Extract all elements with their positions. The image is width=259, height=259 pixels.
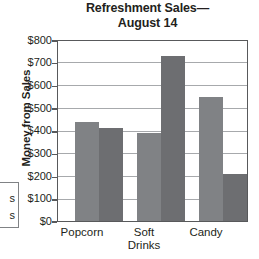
legend-item-0: s xyxy=(10,193,16,204)
chart-title: Refreshment Sales— August 14 xyxy=(40,1,255,30)
x-tick-label-popcorn: Popcorn xyxy=(48,226,116,239)
x-tick-label-soft-drinks: Soft Drinks xyxy=(110,226,178,252)
bar-popcorn-series1 xyxy=(75,122,99,221)
bar-chart-figure: Refreshment Sales— August 14 Money from … xyxy=(0,0,259,259)
x-tick-label-candy: Candy xyxy=(172,226,240,239)
x-tick-softdrinks-line2: Drinks xyxy=(110,239,178,252)
y-tick-label-700: $700 xyxy=(0,57,52,68)
bar-softdrinks-series2 xyxy=(161,56,185,221)
bar-candy-series1 xyxy=(199,97,223,221)
y-tick-label-500: $500 xyxy=(0,103,52,114)
x-tick-softdrinks-line1: Soft xyxy=(134,226,154,238)
bars-layer xyxy=(58,41,247,221)
chart-title-line1: Refreshment Sales— xyxy=(86,1,209,15)
legend-item-1: s xyxy=(10,210,16,221)
y-tick-label-800: $800 xyxy=(0,35,52,46)
bar-softdrinks-series1 xyxy=(137,133,161,221)
legend: s s xyxy=(0,182,19,228)
legend-item-1-label: s xyxy=(10,209,16,221)
chart-title-line2: August 14 xyxy=(40,16,255,31)
y-tick-label-600: $600 xyxy=(0,80,52,91)
y-tick-label-200: $200 xyxy=(0,171,52,182)
x-tick-popcorn-line1: Popcorn xyxy=(61,226,104,238)
x-tick-candy-line1: Candy xyxy=(189,226,222,238)
legend-item-0-label: s xyxy=(10,192,16,204)
y-tick-label-400: $400 xyxy=(0,125,52,136)
bar-popcorn-series2 xyxy=(99,128,123,221)
bar-candy-series2 xyxy=(223,174,247,221)
y-tick-label-300: $300 xyxy=(0,148,52,159)
